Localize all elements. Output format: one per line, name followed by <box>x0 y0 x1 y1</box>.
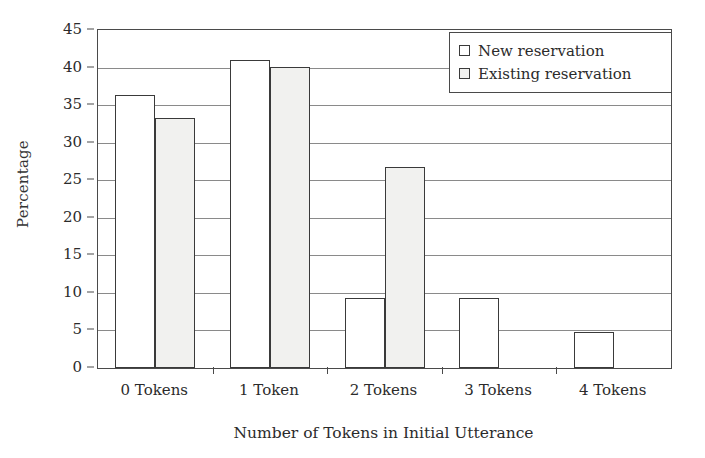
bar <box>459 298 499 368</box>
bar <box>230 60 270 368</box>
y-axis-title-label: Percentage <box>14 140 32 228</box>
legend: New reservation Existing reservation <box>449 32 672 93</box>
legend-item-new-reservation[interactable]: New reservation <box>459 39 662 62</box>
x-axis-tick-label: 1 Token <box>239 381 299 399</box>
y-axis-tick-mark <box>87 254 94 255</box>
y-axis-tick-label: 40 <box>63 59 82 74</box>
x-axis-tick-mark <box>213 367 214 374</box>
legend-label-new-reservation: New reservation <box>478 42 604 60</box>
y-axis-tick-mark <box>87 216 94 217</box>
y-axis-tick-mark <box>87 66 94 67</box>
bar-chart-figure: Percentage 051015202530354045 0 Tokens1 … <box>0 0 705 458</box>
square-filled-light-icon <box>459 68 470 79</box>
y-axis-tick-label: 5 <box>72 322 82 337</box>
x-axis-tick-label: 0 Tokens <box>121 381 189 399</box>
y-axis-tick-labels: 051015202530354045 <box>46 0 90 400</box>
x-axis-tick-mark <box>327 367 328 374</box>
x-axis-tick-label: 2 Tokens <box>350 381 418 399</box>
bar <box>574 332 614 368</box>
y-axis-tick-label: 0 <box>72 360 82 375</box>
bar <box>385 167 425 368</box>
legend-label-existing-reservation: Existing reservation <box>478 65 632 83</box>
y-axis-tick-mark <box>87 104 94 105</box>
y-axis-tick-mark <box>87 367 94 368</box>
y-axis-title: Percentage <box>0 0 46 368</box>
y-axis-tick-label: 20 <box>63 209 82 224</box>
y-axis-tick-mark <box>87 291 94 292</box>
y-axis-tick-mark <box>87 329 94 330</box>
y-axis-tick-label: 45 <box>63 22 82 37</box>
x-axis-tick-mark <box>442 367 443 374</box>
bar <box>115 95 155 368</box>
x-axis-tick-label: 4 Tokens <box>579 381 647 399</box>
y-axis-tick-mark <box>87 179 94 180</box>
x-axis-title: Number of Tokens in Initial Utterance <box>97 424 670 442</box>
y-axis-tick-mark <box>87 141 94 142</box>
y-axis-tick-label: 10 <box>63 284 82 299</box>
y-axis-tick-label: 30 <box>63 134 82 149</box>
square-outline-icon <box>459 45 470 56</box>
y-axis-tick-mark <box>87 29 94 30</box>
y-axis-tick-label: 25 <box>63 172 82 187</box>
x-axis-tick-mark <box>556 367 557 374</box>
y-axis-tick-label: 35 <box>63 97 82 112</box>
legend-item-existing-reservation[interactable]: Existing reservation <box>459 62 662 85</box>
bar <box>345 298 385 368</box>
bar <box>155 118 195 368</box>
y-axis-tick-label: 15 <box>63 247 82 262</box>
x-axis-tick-labels: 0 Tokens1 Token2 Tokens3 Tokens4 Tokens <box>97 381 670 405</box>
x-axis-tick-label: 3 Tokens <box>464 381 532 399</box>
bar <box>270 67 310 368</box>
